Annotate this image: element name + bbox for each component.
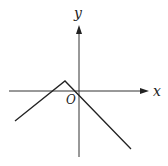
coordinate-plane: x y O (0, 0, 168, 166)
x-axis-arrow-icon (140, 88, 149, 94)
origin-label: O (66, 93, 76, 107)
y-axis-label: y (73, 5, 83, 21)
diagram-canvas: x y O (0, 0, 168, 166)
x-axis-label: x (153, 83, 161, 99)
y-axis-arrow-icon (76, 25, 82, 34)
